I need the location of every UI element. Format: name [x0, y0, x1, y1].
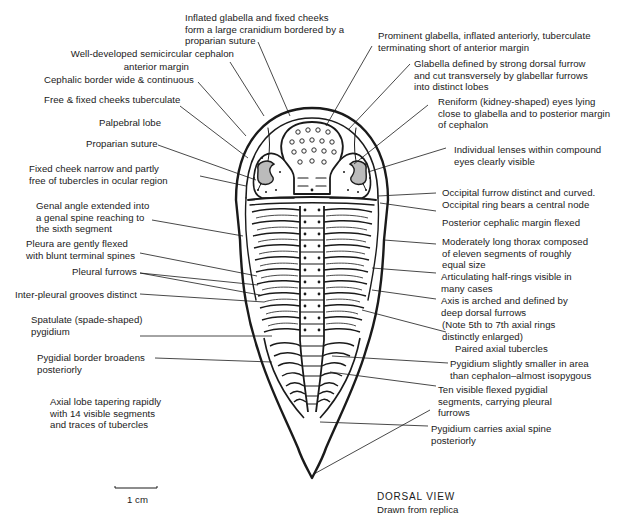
label-proparian-suture: Proparian suture — [86, 138, 158, 150]
label-occipital-furrow: Occipital furrow distinct and curved. Oc… — [442, 187, 595, 210]
label-axial-rings-note: (Note 5th to 7th axial rings distinctly … — [442, 319, 555, 342]
view-subtitle: Drawn from replica — [377, 504, 458, 516]
scale-bar — [115, 486, 157, 488]
scale-bar-label: 1 cm — [127, 494, 148, 506]
axis — [300, 206, 324, 412]
trilobite-diagram: Inflated glabella and fixed cheeks form … — [0, 0, 626, 527]
view-title: DORSAL VIEW — [377, 491, 455, 503]
cephalic-border — [246, 118, 378, 198]
label-reniform-eyes: Reniform (kidney-shaped) eyes lying clos… — [438, 96, 610, 131]
label-palpebral-lobe: Palpebral lobe — [99, 117, 161, 129]
label-genal-angle: Genal angle extended into a genal spine … — [36, 200, 149, 235]
label-pleura-flexed: Pleura are gently flexed with blunt term… — [26, 238, 135, 261]
label-axis-arched: Axis is arched and defined by deep dorsa… — [441, 295, 568, 318]
label-pleural-furrows: Pleural furrows — [72, 266, 137, 278]
label-individual-lenses: Individual lenses within compound eyes c… — [454, 144, 601, 167]
label-inter-pleural-grooves: Inter-pleural grooves distinct — [15, 289, 137, 301]
label-prominent-glabella: Prominent glabella, inflated anteriorly,… — [378, 30, 591, 53]
label-semicircular-cephalon: Well-developed semicircular cephalon — [70, 48, 234, 60]
label-pygidium-smaller: Pygidium slightly smaller in area than c… — [450, 358, 591, 381]
label-spatulate-pygidium: Spatulate (spade-shaped) pygidium — [31, 314, 143, 337]
label-paired-tubercles: Paired axial tubercles — [455, 343, 548, 355]
label-inflated-glabella: Inflated glabella and fixed cheeks form … — [185, 12, 344, 47]
eye-right — [350, 161, 366, 184]
label-axial-lobe: Axial lobe tapering rapidly with 14 visi… — [50, 396, 161, 431]
eyes — [258, 161, 367, 184]
leader-lines — [140, 42, 448, 474]
label-thorax: Moderately long thorax composed of eleve… — [442, 236, 588, 271]
eye-left — [258, 161, 274, 184]
label-half-rings: Articulating half-rings visible in many … — [441, 271, 572, 294]
label-ten-segments: Ten visible flexed pygidial segments, ca… — [438, 384, 552, 419]
label-cheeks-tuberculate: Free & fixed cheeks tuberculate — [44, 94, 180, 106]
axial-tubercles — [304, 209, 321, 332]
label-anterior-margin: anterior margin — [70, 61, 189, 73]
glabellar-tubercles — [290, 128, 336, 164]
label-fixed-cheek-narrow: Fixed cheek narrow and partly free of tu… — [29, 163, 168, 186]
thorax-segments — [252, 209, 372, 332]
label-cephalic-border: Cephalic border wide & continuous — [44, 74, 194, 86]
label-pygidial-border: Pygidial border broadens posteriorly — [37, 352, 145, 375]
label-axial-spine: Pygidium carries axial spine posteriorly — [431, 423, 551, 446]
occipital-furrow — [248, 197, 376, 200]
label-glabella-defined: Glabella defined by strong dorsal furrow… — [414, 58, 588, 93]
label-posterior-cephalic-margin: Posterior cephalic margin flexed — [442, 217, 580, 229]
genal-spine-right — [368, 198, 379, 300]
pleural-furrows — [256, 215, 368, 326]
glabella — [281, 122, 342, 194]
